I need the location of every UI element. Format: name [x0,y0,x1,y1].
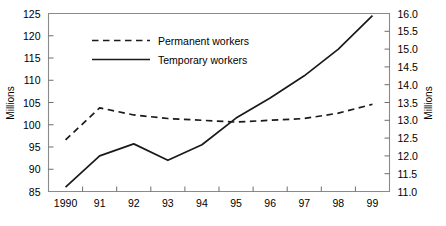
legend-label-temporary: Temporary workers [158,54,247,66]
right-tick-label: 13.0 [398,114,419,126]
left-tick-label: 100 [23,119,41,131]
left-tick-label: 105 [23,97,41,109]
right-tick-label: 11.0 [398,186,418,198]
right-tick-label: 15.0 [398,43,419,55]
x-axis-ticks [83,187,356,192]
left-tick-label: 125 [23,8,41,20]
left-tick-label: 110 [24,74,41,86]
left-tick-label: 115 [24,52,41,64]
right-tick-label: 15.5 [398,25,419,37]
right-tick-label: 14.0 [398,79,419,91]
x-tick-label: 93 [162,197,174,209]
chart-legend: Permanent workers Temporary workers [92,35,249,66]
right-axis-tick-labels: 11.011.512.012.513.013.514.014.515.015.5… [398,8,419,198]
left-tick-label: 90 [29,163,41,175]
left-tick-label: 120 [23,30,41,42]
legend-label-permanent: Permanent workers [158,35,249,47]
right-tick-label: 12.5 [398,132,419,144]
right-tick-label: 11.5 [398,168,418,180]
x-tick-label: 99 [367,197,379,209]
right-tick-label: 16.0 [398,8,419,20]
left-tick-label: 85 [29,186,41,198]
x-axis-tick-labels: 1990919293949596979899 [54,197,379,209]
left-axis-tick-labels: 859095100105110115120125 [23,8,41,198]
x-tick-label: 1990 [54,197,78,209]
x-tick-label: 98 [333,197,345,209]
x-tick-label: 95 [230,197,242,209]
left-tick-label: 95 [29,141,41,153]
right-axis-title: Millions [423,86,434,119]
x-tick-label: 96 [264,197,276,209]
right-tick-label: 12.0 [398,150,419,162]
dual-axis-line-chart: 859095100105110115120125 11.011.512.012.… [0,0,446,226]
x-tick-label: 92 [128,197,140,209]
right-axis-ticks [385,31,390,173]
series-line-permanent-workers [66,104,373,140]
x-tick-label: 94 [196,197,208,209]
right-tick-label: 13.5 [398,97,419,109]
left-axis-title: Millions [5,86,16,119]
left-axis-ticks [49,36,54,170]
chart-canvas: 859095100105110115120125 11.011.512.012.… [0,0,446,226]
x-tick-label: 91 [94,197,106,209]
right-tick-label: 14.5 [398,61,419,73]
x-tick-label: 97 [298,197,310,209]
